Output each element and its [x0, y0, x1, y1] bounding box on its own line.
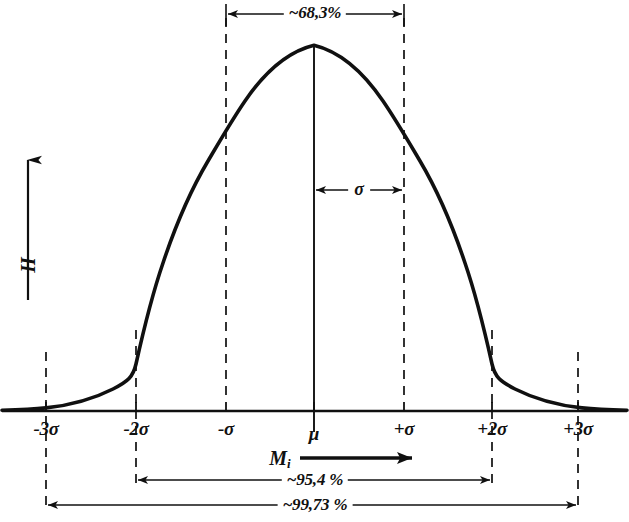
x-axis-ticks — [46, 402, 578, 411]
x-tick-label-pos1sigma: +σ — [394, 419, 414, 438]
x-axis-variable-label: Mi — [269, 448, 290, 470]
x-tick-label-neg3sigma: -3σ — [33, 419, 58, 438]
bracket-683-label: ~68,3% — [284, 4, 346, 21]
bracket-954-label: ~95,4 % — [282, 471, 348, 488]
normal-distribution-figure: ~68,3% σ H -3σ -2σ -σ μ +σ +2σ +3σ Mi ~9… — [0, 0, 629, 522]
sigma-width-label: σ — [348, 180, 370, 198]
mi-main-text: M — [269, 447, 287, 469]
x-tick-label-pos2sigma: +2σ — [477, 419, 507, 438]
bracket-9973-label: ~99,73 % — [278, 496, 353, 513]
y-axis-label: H — [18, 257, 38, 273]
x-tick-label-pos3sigma: +3σ — [563, 419, 593, 438]
x-tick-label-neg2sigma: -2σ — [123, 419, 148, 438]
x-tick-label-neg1sigma: -σ — [218, 419, 234, 438]
mi-subscript-text: i — [287, 456, 291, 471]
x-tick-label-mu: μ — [309, 424, 320, 443]
